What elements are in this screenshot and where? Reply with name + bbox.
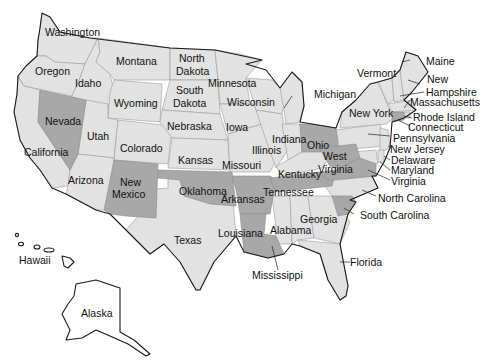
label-hawaii: Hawaii: [19, 254, 51, 266]
label-michigan: Michigan: [314, 88, 356, 100]
label-kansas: Kansas: [178, 154, 213, 166]
label-wyoming: Wyoming: [114, 97, 158, 109]
label-alaska: Alaska: [81, 307, 113, 319]
label-kentucky: Kentucky: [278, 168, 322, 180]
label-arkansas: Arkansas: [221, 193, 265, 205]
label-west-virginia-1: West: [323, 150, 347, 162]
state-delaware[interactable]: [378, 150, 384, 162]
label-illinois: Illinois: [252, 144, 281, 156]
state-new-jersey[interactable]: [380, 128, 390, 152]
label-virginia: Virginia: [391, 175, 426, 187]
label-washington: Washington: [45, 26, 100, 38]
label-north-dakota-1: North: [179, 52, 205, 64]
us-map: Washington Oregon California Idaho Nevad…: [0, 0, 486, 363]
label-oklahoma: Oklahoma: [179, 185, 227, 197]
label-nebraska: Nebraska: [167, 120, 212, 132]
label-delaware: Delaware: [391, 154, 436, 166]
label-iowa: Iowa: [226, 121, 248, 133]
label-north-dakota-2: Dakota: [176, 65, 209, 77]
label-oregon: Oregon: [35, 65, 70, 77]
label-new-jersey: New Jersey: [390, 143, 446, 155]
label-north-carolina: North Carolina: [378, 192, 446, 204]
label-new-mexico-1: New: [120, 176, 141, 188]
label-south-carolina: South Carolina: [360, 209, 430, 221]
label-vermont: Vermont: [357, 67, 396, 79]
label-south-dakota-2: Dakota: [173, 97, 206, 109]
label-georgia: Georgia: [300, 213, 338, 225]
label-california: California: [24, 146, 69, 158]
label-nevada: Nevada: [45, 115, 81, 127]
label-pennsylvania: Pennsylvania: [393, 132, 456, 144]
label-maine: Maine: [426, 55, 455, 67]
label-texas: Texas: [174, 234, 201, 246]
label-arizona: Arizona: [68, 174, 104, 186]
label-louisiana: Louisiana: [218, 227, 263, 239]
label-tennessee: Tennessee: [263, 186, 314, 198]
label-new-hampshire-1: New: [427, 73, 448, 85]
label-utah: Utah: [87, 130, 109, 142]
label-new-mexico-2: Mexico: [112, 188, 145, 200]
label-montana: Montana: [116, 55, 157, 67]
label-minnesota: Minnesota: [208, 77, 257, 89]
label-florida: Florida: [350, 256, 382, 268]
label-west-virginia-2: Virginia: [318, 163, 353, 175]
label-wisconsin: Wisconsin: [227, 96, 275, 108]
label-new-hampshire-2: Hampshire: [426, 86, 477, 98]
label-missouri: Missouri: [222, 159, 261, 171]
label-colorado: Colorado: [120, 142, 163, 154]
label-idaho: Idaho: [75, 77, 101, 89]
label-rhode-island: Rhode Island: [413, 111, 475, 123]
label-indiana: Indiana: [272, 133, 307, 145]
label-south-dakota-1: South: [176, 84, 204, 96]
label-new-york: New York: [349, 107, 394, 119]
state-maine[interactable]: [400, 52, 428, 100]
label-mississippi: Mississippi: [252, 269, 303, 281]
label-alabama: Alabama: [270, 224, 312, 236]
